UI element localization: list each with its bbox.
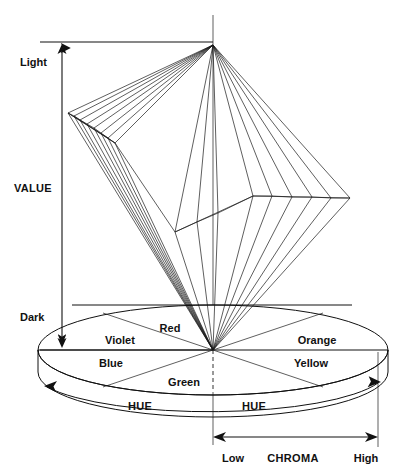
munsell-diagram: Light VALUE Dark	[0, 0, 403, 473]
solid-lower-left-fan	[68, 113, 213, 350]
label-light: Light	[20, 56, 47, 68]
munsell-color-solid-svg: Light VALUE Dark	[0, 0, 403, 473]
solid-upper-right-fan	[175, 45, 350, 232]
label-hue-left: HUE	[128, 400, 152, 412]
hue-label-yellow: Yellow	[294, 357, 329, 369]
hue-label-green: Green	[168, 376, 200, 388]
hue-label-orange: Orange	[298, 334, 337, 346]
hue-axis-labels: HUE HUE	[128, 400, 266, 412]
label-chroma-low: Low	[222, 452, 244, 464]
hue-arrow-left-head	[44, 381, 57, 392]
label-dark: Dark	[20, 311, 45, 323]
label-hue-right: HUE	[242, 400, 266, 412]
label-chroma-high: High	[354, 452, 379, 464]
label-value: VALUE	[14, 182, 52, 194]
hue-label-violet: Violet	[105, 334, 135, 346]
hue-label-blue: Blue	[99, 357, 123, 369]
label-chroma: CHROMA	[267, 452, 318, 464]
color-solid-wireframe	[68, 45, 350, 350]
value-axis-group: Light VALUE Dark	[14, 42, 213, 350]
chroma-axis-group: Low CHROMA High	[213, 432, 378, 464]
hue-label-red: Red	[160, 322, 181, 334]
solid-right-hull	[175, 196, 350, 232]
hue-arrow-right-head	[367, 376, 381, 389]
